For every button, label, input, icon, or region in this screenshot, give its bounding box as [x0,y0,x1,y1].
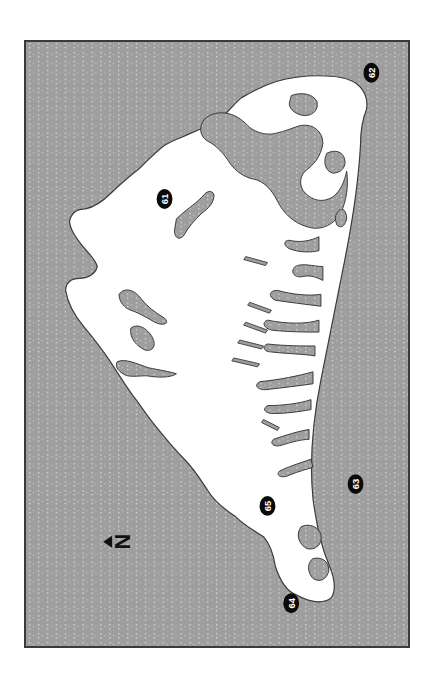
marker-label: 62 [366,68,377,78]
marker-63[interactable]: 63 [348,474,364,494]
marker-label: 65 [262,501,273,511]
marker-61[interactable]: 61 [157,189,173,209]
lagoon [325,151,345,173]
marker-64[interactable]: 64 [283,593,299,613]
marker-label: 64 [286,597,297,608]
north-arrow-label: N [110,534,135,550]
marker-65[interactable]: 65 [260,496,276,516]
map-canvas[interactable]: N 61 62 63 64 65 [26,42,408,646]
marker-label: 63 [350,479,361,489]
bay-south [309,558,329,580]
map-frame: N 61 62 63 64 65 [24,40,410,648]
marker-62[interactable]: 62 [363,63,379,83]
marker-label: 61 [159,194,170,204]
